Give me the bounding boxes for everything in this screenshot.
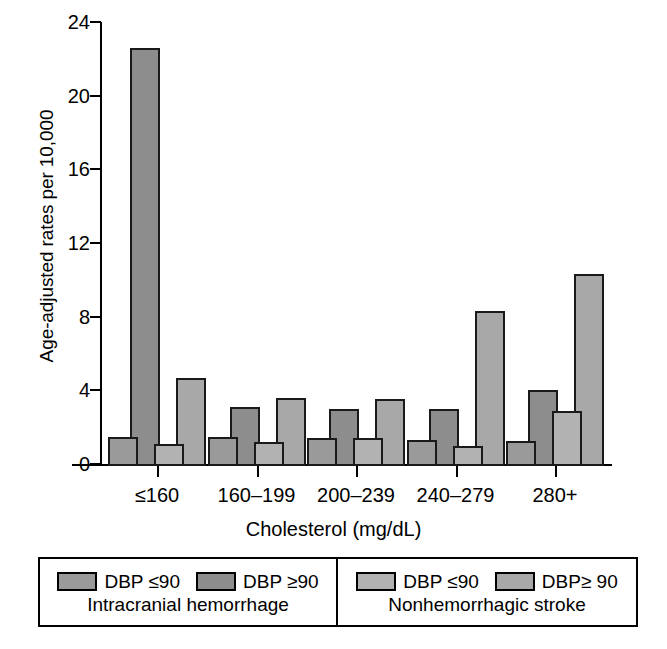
x-tick-mark xyxy=(555,466,557,477)
bar xyxy=(353,438,383,466)
x-tick-mark xyxy=(356,466,358,477)
x-axis-label: Cholesterol (mg/dL) xyxy=(0,518,667,541)
legend-key-row: DBP ≤90DBP≥ 90 xyxy=(338,571,636,593)
legend-key: DBP ≤90 xyxy=(356,571,479,593)
bar xyxy=(506,441,536,466)
x-tick-mark xyxy=(456,466,458,477)
legend-swatch xyxy=(356,572,396,591)
plot-area: Age-adjusted rates per 10,000 2420161284… xyxy=(0,0,667,500)
legend-key: DBP ≤90 xyxy=(57,571,180,593)
legend-panel-nonhemorrhagic-stroke: DBP ≤90DBP≥ 90 Nonhemorrhagic stroke xyxy=(338,559,636,625)
legend-key-row: DBP ≤90DBP ≥90 xyxy=(40,571,336,593)
legend-panel-title: Nonhemorrhagic stroke xyxy=(338,594,636,616)
bar xyxy=(552,411,582,466)
x-tick-label: 240–279 xyxy=(417,484,495,507)
figure: Age-adjusted rates per 10,000 2420161284… xyxy=(0,0,667,649)
x-tick-mark xyxy=(257,466,259,477)
x-tick-label: 160–199 xyxy=(218,484,296,507)
bar xyxy=(130,48,160,466)
legend-panel-intracranial-hemorrhage: DBP ≤90DBP ≥90 Intracranial hemorrhage xyxy=(40,559,338,625)
legend-key: DBP≥ 90 xyxy=(495,571,618,593)
legend-panel-title: Intracranial hemorrhage xyxy=(40,594,336,616)
bar xyxy=(453,446,483,466)
legend-key: DBP ≥90 xyxy=(196,571,319,593)
bar xyxy=(475,311,505,466)
legend-swatch xyxy=(495,572,535,591)
bar-group xyxy=(0,0,667,466)
legend-key-label: DBP ≤90 xyxy=(403,571,479,593)
bar xyxy=(108,437,138,466)
legend-key-label: DBP≥ 90 xyxy=(542,571,618,593)
bar xyxy=(407,440,437,466)
bar xyxy=(307,438,337,466)
x-tick-label: 280+ xyxy=(532,484,577,507)
legend-swatch xyxy=(57,572,97,591)
x-tick-mark xyxy=(157,466,159,477)
legend-key-label: DBP ≥90 xyxy=(243,571,319,593)
legend: DBP ≤90DBP ≥90 Intracranial hemorrhage D… xyxy=(38,557,638,627)
x-tick-label: ≤160 xyxy=(135,484,179,507)
legend-key-label: DBP ≤90 xyxy=(104,571,180,593)
x-tick-mark-group xyxy=(0,466,667,478)
bar xyxy=(208,437,238,466)
legend-swatch xyxy=(196,572,236,591)
bar xyxy=(154,444,184,466)
x-tick-label: 200–239 xyxy=(317,484,395,507)
x-tick-label-group: ≤160160–199200–239240–279280+ xyxy=(0,484,667,514)
bar xyxy=(254,442,284,466)
